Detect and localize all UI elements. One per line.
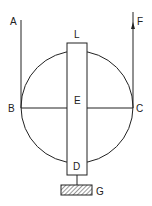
label-a: A xyxy=(10,16,17,27)
label-d: D xyxy=(73,161,80,172)
label-g: G xyxy=(96,186,104,197)
weight-g xyxy=(61,185,92,195)
label-e: E xyxy=(74,95,81,106)
label-b: B xyxy=(8,103,15,114)
label-c: C xyxy=(136,103,143,114)
rod-ld xyxy=(67,43,87,175)
label-f: F xyxy=(137,16,143,27)
label-l: L xyxy=(74,29,80,40)
pulley-diagram: A F L B E C D G xyxy=(0,0,152,206)
arrow-up-icon xyxy=(131,22,135,29)
